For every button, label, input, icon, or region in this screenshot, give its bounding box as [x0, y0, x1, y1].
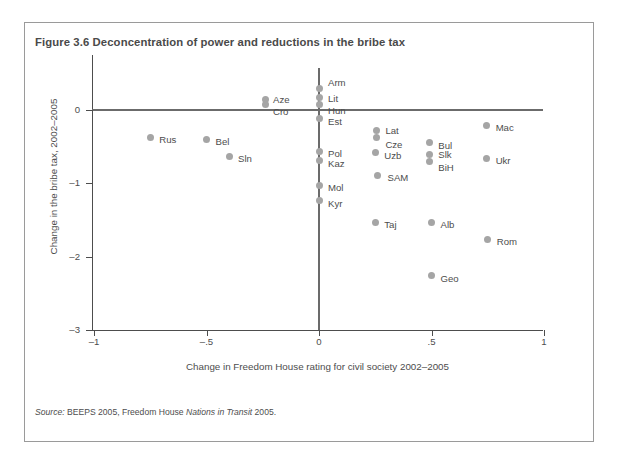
scatter-plot-area: 0–1–2–3 –1–.50.51 ArmLitHunAzeCroEstRusB…: [25, 23, 595, 443]
x-tick-label: .5: [417, 336, 447, 347]
data-point-label-hun: Hun: [328, 106, 346, 116]
data-point-sln[interactable]: [226, 153, 233, 160]
data-point-label-kyr: Kyr: [328, 199, 342, 209]
data-point-label-alb: Alb: [441, 220, 455, 230]
data-point-label-taj: Taj: [384, 220, 396, 230]
data-point-label-mol: Mol: [328, 183, 343, 193]
data-point-label-bel: Bel: [216, 137, 230, 147]
y-tick-label: –3: [52, 324, 80, 335]
data-point-est[interactable]: [316, 115, 323, 122]
data-point-label-kaz: Kaz: [328, 159, 345, 169]
data-point-label-uzb: Uzb: [384, 151, 401, 161]
source-text-part2: 2005.: [252, 407, 276, 417]
data-point-rom[interactable]: [484, 236, 491, 243]
data-point-label-geo: Geo: [441, 274, 459, 284]
data-point-pol[interactable]: [316, 148, 323, 155]
data-point-kaz[interactable]: [316, 157, 323, 164]
data-point-lit[interactable]: [316, 94, 323, 101]
data-point-label-est: Est: [328, 117, 342, 127]
data-point-label-bih: BiH: [438, 163, 453, 173]
x-tick-label: –.5: [192, 336, 222, 347]
data-point-label-mac: Mac: [496, 123, 514, 133]
data-point-alb[interactable]: [428, 219, 435, 226]
data-point-geo[interactable]: [428, 272, 435, 279]
y-tick: [86, 330, 93, 331]
data-point-bul[interactable]: [426, 139, 433, 146]
figure-frame: Figure 3.6 Deconcentration of power and …: [24, 22, 594, 442]
data-point-label-slk: Slk: [438, 150, 451, 160]
y-axis-line: [92, 55, 93, 331]
x-tick-label: 0: [304, 336, 334, 347]
data-point-hun[interactable]: [316, 101, 323, 108]
data-point-uzb[interactable]: [372, 149, 379, 156]
data-point-taj[interactable]: [372, 219, 379, 226]
data-point-lat[interactable]: [373, 127, 380, 134]
data-point-sam[interactable]: [374, 172, 381, 179]
data-point-ukr[interactable]: [483, 155, 490, 162]
data-point-kyr[interactable]: [316, 197, 323, 204]
data-point-label-cze: Cze: [385, 140, 402, 150]
data-point-bel[interactable]: [203, 136, 210, 143]
source-note: Source: BEEPS 2005, Freedom House Nation…: [35, 407, 276, 417]
data-point-bih[interactable]: [426, 158, 433, 165]
data-point-label-lit: Lit: [328, 94, 338, 104]
source-publication-name: Nations in Transit: [186, 407, 252, 417]
data-point-label-rus: Rus: [159, 135, 176, 145]
y-tick: [86, 257, 93, 258]
y-axis-title: Change in the bribe tax, 2002–2005: [48, 57, 59, 297]
x-axis-title: Change in Freedom House rating for civil…: [92, 361, 543, 372]
data-point-label-sam: SAM: [388, 173, 409, 183]
data-point-mac[interactable]: [483, 122, 490, 129]
data-point-cro[interactable]: [262, 101, 269, 108]
source-label: Source:: [35, 407, 65, 417]
data-point-label-ukr: Ukr: [496, 156, 511, 166]
data-point-arm[interactable]: [316, 85, 323, 92]
data-point-label-arm: Arm: [328, 78, 346, 88]
x-tick-label: 1: [529, 336, 559, 347]
x-axis-line: [92, 330, 543, 331]
data-point-label-cro: Cro: [273, 107, 288, 117]
x-tick-label: –1: [79, 336, 109, 347]
data-point-label-lat: Lat: [385, 126, 398, 136]
data-point-label-sln: Sln: [238, 154, 252, 164]
y-tick: [86, 110, 93, 111]
y-tick: [86, 183, 93, 184]
data-point-label-aze: Aze: [273, 95, 290, 105]
source-text-part1: BEEPS 2005, Freedom House: [65, 407, 186, 417]
data-point-label-rom: Rom: [497, 237, 517, 247]
data-point-rus[interactable]: [147, 134, 154, 141]
data-point-cze[interactable]: [373, 134, 380, 141]
data-point-mol[interactable]: [316, 182, 323, 189]
